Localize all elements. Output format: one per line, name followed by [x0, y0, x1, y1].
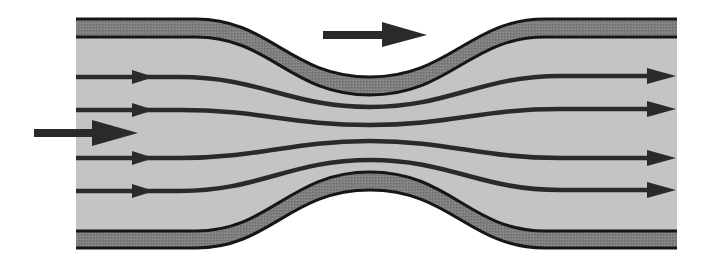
flow-direction-arrow-icon — [323, 22, 427, 47]
fluid-region — [76, 37, 677, 231]
venturi-diagram: Streamlines through a pipe constriction … — [0, 0, 707, 268]
diagram-canvas — [0, 0, 707, 268]
